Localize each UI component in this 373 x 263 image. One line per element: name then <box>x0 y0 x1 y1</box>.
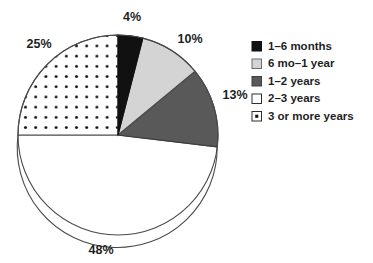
legend-item-6mo-1-year[interactable]: 6 mo–1 year <box>252 57 335 69</box>
legend-item-1-6-months[interactable]: 1–6 months <box>252 40 332 52</box>
light-gray-square-swatch <box>252 59 262 69</box>
legend-label: 1–2 years <box>268 75 320 87</box>
pie-label-13-percent: 13% <box>222 88 247 102</box>
pie-slice-2-3-years <box>17 135 217 248</box>
legend-label: 6 mo–1 year <box>268 57 335 69</box>
dotted-square-swatch-dot <box>255 115 258 118</box>
pie-label-4-percent: 4% <box>123 10 141 24</box>
pie-label-25-percent: 25% <box>26 37 51 51</box>
legend-item-3-or-more-years[interactable]: 3 or more years <box>252 110 354 122</box>
legend: 1–6 months 6 mo–1 year 1–2 years 2–3 yea… <box>252 40 354 122</box>
chart-canvas: 4% 10% 13% 48% 25% 1–6 months 6 mo–1 yea… <box>0 0 373 263</box>
pie-chart-figure: 4% 10% 13% 48% 25% 1–6 months 6 mo–1 yea… <box>0 0 373 263</box>
pie-label-10-percent: 10% <box>177 32 202 46</box>
legend-item-2-3-years[interactable]: 2–3 years <box>252 92 320 104</box>
pie-label-48-percent: 48% <box>88 243 113 257</box>
legend-label: 3 or more years <box>268 110 354 122</box>
legend-label: 1–6 months <box>268 40 332 52</box>
white-square-swatch <box>252 94 262 104</box>
legend-label: 2–3 years <box>268 92 320 104</box>
legend-item-1-2-years[interactable]: 1–2 years <box>252 75 320 87</box>
black-square-swatch <box>252 42 262 52</box>
dark-gray-square-swatch <box>252 77 262 87</box>
